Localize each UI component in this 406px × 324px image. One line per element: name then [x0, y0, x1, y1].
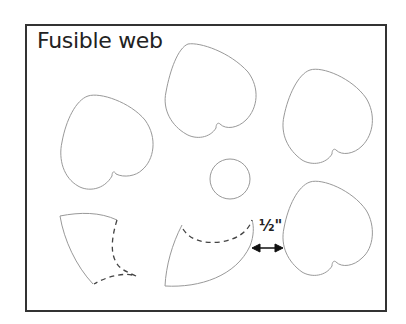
diagram-canvas: Fusible web ½" — [0, 0, 406, 324]
heart-shape-top — [165, 44, 256, 138]
leaf-shape-middle — [165, 220, 253, 286]
heart-shape-right — [283, 69, 372, 163]
circle-shape — [210, 159, 250, 199]
shapes-layer — [0, 0, 406, 324]
measurement-arrow — [252, 244, 283, 252]
dashed-seam-middle — [183, 220, 252, 242]
leaf-shape-left — [60, 213, 117, 284]
heart-shape-left — [61, 95, 153, 189]
dashed-seam-left — [94, 220, 136, 284]
half-inch-label: ½" — [259, 217, 282, 235]
heart-shape-bottom-right — [283, 181, 372, 275]
